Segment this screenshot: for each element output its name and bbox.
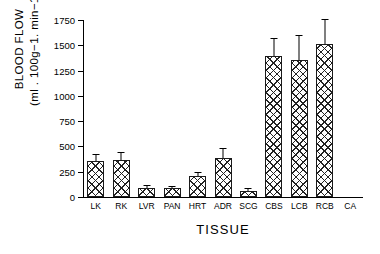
bar-scg	[240, 191, 257, 197]
bar-adr	[215, 158, 232, 197]
error-bar-rk	[121, 153, 122, 160]
bar-rk	[113, 160, 130, 197]
bar-lcb	[291, 60, 308, 197]
x-axis-tick-labels: LKRKLVRPANHRTADRSCGCBSLCBRCBCA	[83, 201, 363, 215]
error-cap-adr	[220, 148, 227, 149]
error-bar-cbs	[273, 39, 274, 56]
y-tick-label: 500	[59, 141, 75, 152]
error-cap-rcb	[321, 19, 328, 20]
bar-group-ca	[342, 20, 359, 197]
bar-lk	[87, 161, 104, 197]
error-bar-rcb	[324, 20, 325, 45]
error-bar-hrt	[197, 173, 198, 177]
error-cap-scg	[245, 188, 252, 189]
plot-area: 02505007501000125015001750	[83, 20, 363, 197]
bar-group-hrt	[189, 20, 206, 197]
error-bar-lk	[95, 155, 96, 162]
error-bar-scg	[248, 189, 249, 191]
y-tick-mark	[78, 197, 83, 198]
x-tick-label-lcb: LCB	[291, 201, 308, 211]
error-cap-lk	[92, 154, 99, 155]
x-tick-label-hrt: HRT	[189, 201, 206, 211]
y-tick-label: 250	[59, 166, 75, 177]
error-cap-lvr	[143, 185, 150, 186]
x-tick-label-scg: SCG	[239, 201, 257, 211]
error-cap-lcb	[296, 35, 303, 36]
bar-rcb	[316, 44, 333, 197]
y-tick-label: 0	[70, 192, 75, 203]
bar-group-adr	[215, 20, 232, 197]
error-bar-adr	[223, 149, 224, 158]
x-tick-label-lvr: LVR	[139, 201, 155, 211]
bar-group-rcb	[316, 20, 333, 197]
x-tick-label-rcb: RCB	[316, 201, 334, 211]
x-tick-label-lk: LK	[91, 201, 101, 211]
error-bar-pan	[172, 187, 173, 189]
y-axis-title: BLOOD FLOW (ml . 100g−1. min−1)	[12, 0, 42, 139]
y-axis-title-line2: (ml . 100g−1. min−1)	[27, 0, 42, 139]
bar-pan	[164, 188, 181, 197]
y-axis-title-line1: BLOOD FLOW	[12, 0, 27, 139]
bar-group-scg	[240, 20, 257, 197]
bar-hrt	[189, 176, 206, 197]
bar-series	[83, 20, 363, 197]
bar-group-lvr	[138, 20, 155, 197]
error-bar-lcb	[299, 36, 300, 60]
y-tick-label: 1250	[54, 65, 75, 76]
error-bar-lvr	[146, 186, 147, 188]
blood-flow-bar-chart: BLOOD FLOW (ml . 100g−1. min−1) 02505007…	[0, 0, 380, 254]
x-tick-label-rk: RK	[115, 201, 127, 211]
bar-group-rk	[113, 20, 130, 197]
y-tick-label: 750	[59, 116, 75, 127]
x-tick-label-cbs: CBS	[265, 201, 282, 211]
error-cap-pan	[169, 186, 176, 187]
y-tick-label: 1750	[54, 15, 75, 26]
bar-lvr	[138, 188, 155, 197]
bar-group-cbs	[265, 20, 282, 197]
bar-group-pan	[164, 20, 181, 197]
y-tick-label: 1500	[54, 40, 75, 51]
bar-cbs	[265, 56, 282, 197]
x-tick-label-adr: ADR	[214, 201, 232, 211]
x-axis-line	[83, 197, 363, 198]
x-axis-title: TISSUE	[83, 222, 363, 237]
x-tick-label-pan: PAN	[164, 201, 181, 211]
error-cap-hrt	[194, 172, 201, 173]
bar-group-lk	[87, 20, 104, 197]
bar-group-lcb	[291, 20, 308, 197]
error-cap-rk	[118, 152, 125, 153]
x-tick-label-ca: CA	[344, 201, 356, 211]
y-tick-label: 1000	[54, 90, 75, 101]
error-cap-cbs	[270, 38, 277, 39]
